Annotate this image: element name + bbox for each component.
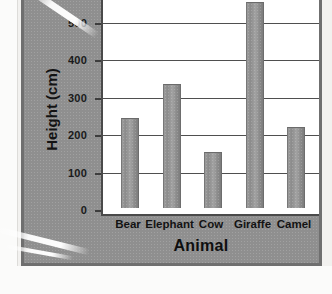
chart-panel: Height (cm) 0100200300400500 BearElephan…: [21, 0, 322, 266]
bar-bear: [121, 118, 139, 208]
y-tick-label-200: 200: [41, 129, 87, 141]
y-tick-label-400: 400: [41, 54, 87, 66]
bar-giraffe: [246, 2, 264, 208]
paper-left-margin: [0, 0, 18, 294]
bar-camel: [287, 127, 305, 208]
x-tick-label-camel: Camel: [277, 218, 312, 230]
y-axis-title: Height (cm): [43, 50, 60, 170]
y-tick-label-300: 300: [41, 92, 87, 104]
paper-bottom-margin: [0, 266, 332, 294]
x-tick-label-cow: Cow: [199, 218, 223, 230]
y-tick-label-500: 500: [41, 17, 87, 29]
bar-cow: [204, 152, 222, 208]
x-axis-title: Animal: [101, 237, 301, 255]
x-tick-label-giraffe: Giraffe: [234, 218, 271, 230]
paper-edge-line: [17, 0, 18, 266]
plot-area: [101, 0, 322, 216]
x-axis-ticks: BearElephantCowGiraffeCamelHorse: [101, 218, 322, 236]
scanned-page-background: Height (cm) 0100200300400500 BearElephan…: [0, 0, 332, 294]
x-tick-label-bear: Bear: [115, 218, 141, 230]
y-tick-label-0: 0: [41, 204, 87, 216]
gridline-400: [103, 60, 322, 61]
gridline-300: [103, 98, 322, 99]
y-tick-label-100: 100: [41, 167, 87, 179]
x-tick-label-elephant: Elephant: [145, 218, 194, 230]
x-tick-label-horse: Horse: [319, 218, 322, 230]
gridline-500: [103, 23, 322, 24]
bar-elephant: [163, 84, 181, 208]
